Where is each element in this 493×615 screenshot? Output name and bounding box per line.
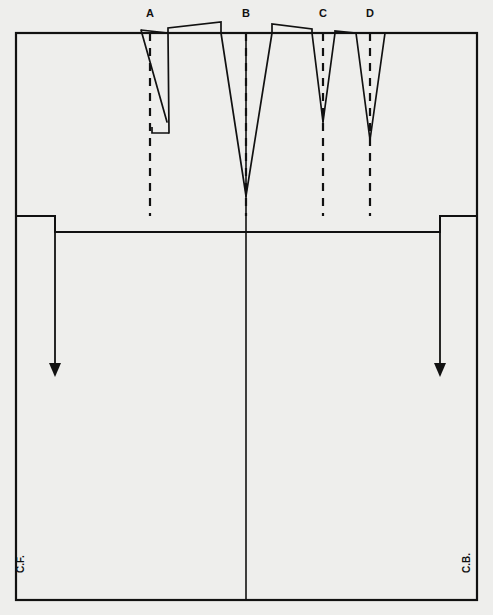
pattern-diagram-stage: ABCD C.F.C.B. bbox=[0, 0, 493, 615]
dart-label-c: C bbox=[319, 7, 327, 19]
center-front-label: C.F. bbox=[15, 555, 26, 573]
dart-label-d: D bbox=[366, 7, 374, 19]
dart-label-a: A bbox=[146, 7, 154, 19]
center-back-label: C.B. bbox=[461, 553, 472, 573]
pattern-draft-svg: ABCD C.F.C.B. bbox=[0, 0, 493, 615]
dart-label-b: B bbox=[242, 7, 250, 19]
dart-a-right-leg bbox=[168, 33, 169, 133]
